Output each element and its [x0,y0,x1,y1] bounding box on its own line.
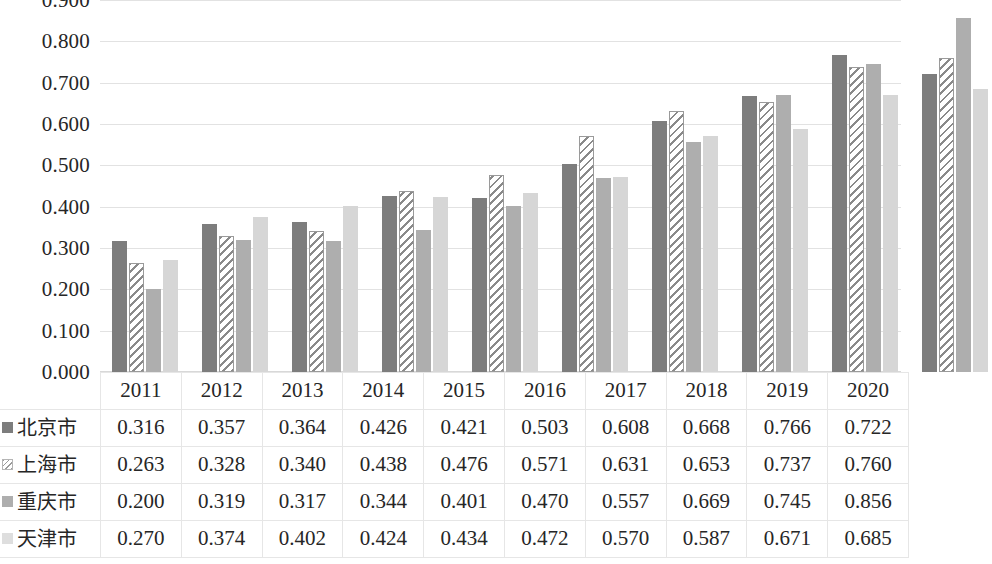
bar-重庆市-2016 [596,178,611,372]
bar-上海市-2011 [129,263,144,372]
table-column-header-2020: 2020 [828,373,909,410]
y-axis-tick-label: 0.700 [42,72,90,93]
bar-天津市-2016 [613,177,628,372]
bar-group-2016 [550,0,640,372]
table-column-header-2017: 2017 [585,373,666,410]
bar-重庆市-2020 [956,18,971,372]
table-row: 上海市0.2630.3280.3400.4380.4760.5710.6310.… [0,446,909,483]
bar-重庆市-2013 [326,241,341,372]
table-row: 重庆市0.2000.3190.3170.3440.4010.4700.5570.… [0,483,909,520]
y-axis-tick-label: 0.200 [42,279,90,300]
bar-北京市-2015 [472,198,487,372]
legend-item-上海市: 上海市 [0,446,101,483]
table-column-header-2016: 2016 [504,373,585,410]
bar-北京市-2018 [742,96,757,372]
table-cell: 0.557 [585,483,666,520]
bar-北京市-2016 [562,164,577,372]
legend-swatch-icon [2,422,13,433]
table-column-header-2011: 2011 [101,373,182,410]
table-cell: 0.421 [424,409,505,446]
table-cell: 0.745 [747,483,828,520]
bar-北京市-2017 [652,121,667,372]
table-cell: 0.270 [101,520,182,557]
y-axis-tick-label: 0.800 [42,31,90,52]
bar-重庆市-2015 [506,206,521,372]
legend-item-label: 上海市 [17,455,77,475]
legend-swatch-icon [2,533,13,544]
table-cell: 0.671 [747,520,828,557]
table-cell: 0.470 [504,483,585,520]
table-cell: 0.587 [666,520,747,557]
bar-天津市-2018 [793,129,808,372]
bar-北京市-2014 [382,196,397,372]
bar-上海市-2019 [849,67,864,372]
table-column-header-2013: 2013 [262,373,343,410]
table-cell: 0.722 [828,409,909,446]
bar-北京市-2011 [112,241,127,372]
table-cell: 0.438 [343,446,424,483]
table-cell: 0.317 [262,483,343,520]
table-corner-cell [0,373,101,410]
table-cell: 0.263 [101,446,182,483]
bar-上海市-2015 [489,175,504,372]
bar-北京市-2012 [202,224,217,372]
bar-天津市-2020 [973,89,988,372]
table-cell: 0.340 [262,446,343,483]
bar-上海市-2016 [579,136,594,372]
table-cell: 0.685 [828,520,909,557]
bar-group-2011 [100,0,190,372]
bar-天津市-2014 [433,197,448,372]
table-column-header-2012: 2012 [181,373,262,410]
bar-天津市-2015 [523,193,538,372]
bar-重庆市-2017 [686,142,701,372]
bar-北京市-2013 [292,222,307,372]
legend-item-label: 重庆市 [17,492,77,512]
bar-上海市-2018 [759,102,774,372]
table-cell: 0.426 [343,409,424,446]
bar-group-2019 [820,0,910,372]
table-cell: 0.503 [504,409,585,446]
bar-重庆市-2019 [866,64,881,372]
bar-group-2017 [640,0,730,372]
y-axis-tick-label: 0.100 [42,320,90,341]
bar-group-2012 [190,0,280,372]
legend-item-重庆市: 重庆市 [0,483,101,520]
bar-group-2013 [280,0,370,372]
table-column-header-2018: 2018 [666,373,747,410]
y-axis-tick-label: 0.600 [42,114,90,135]
y-axis: 0.9000.8000.7000.6000.5000.4000.3000.200… [0,0,96,372]
table-row: 北京市0.3160.3570.3640.4260.4210.5030.6080.… [0,409,909,446]
table-cell: 0.344 [343,483,424,520]
data-table: 2011201220132014201520162017201820192020… [0,372,909,558]
table-cell: 0.669 [666,483,747,520]
legend-swatch-icon [2,459,13,470]
table-cell: 0.424 [343,520,424,557]
table-cell: 0.319 [181,483,262,520]
bar-上海市-2020 [939,58,954,372]
table-cell: 0.737 [747,446,828,483]
bar-group-2015 [460,0,550,372]
bar-group-2014 [370,0,460,372]
table-cell: 0.401 [424,483,505,520]
table-column-header-2014: 2014 [343,373,424,410]
bar-天津市-2012 [253,217,268,372]
bar-北京市-2020 [922,74,937,372]
table-cell: 0.374 [181,520,262,557]
bar-天津市-2019 [883,95,898,372]
y-axis-tick-label: 0.500 [42,155,90,176]
bar-天津市-2017 [703,136,718,372]
table-cell: 0.608 [585,409,666,446]
bar-重庆市-2014 [416,230,431,372]
bar-groups [100,0,901,372]
table-header-row: 2011201220132014201520162017201820192020 [0,373,909,410]
table-cell: 0.668 [666,409,747,446]
bar-chart-plot: 0.9000.8000.7000.6000.5000.4000.3000.200… [0,0,909,372]
table-cell: 0.402 [262,520,343,557]
legend-swatch-icon [2,496,13,507]
table-cell: 0.856 [828,483,909,520]
table-row: 天津市0.2700.3740.4020.4240.4340.4720.5700.… [0,520,909,557]
table-cell: 0.653 [666,446,747,483]
y-axis-tick-label: 0.300 [42,238,90,259]
table-cell: 0.760 [828,446,909,483]
